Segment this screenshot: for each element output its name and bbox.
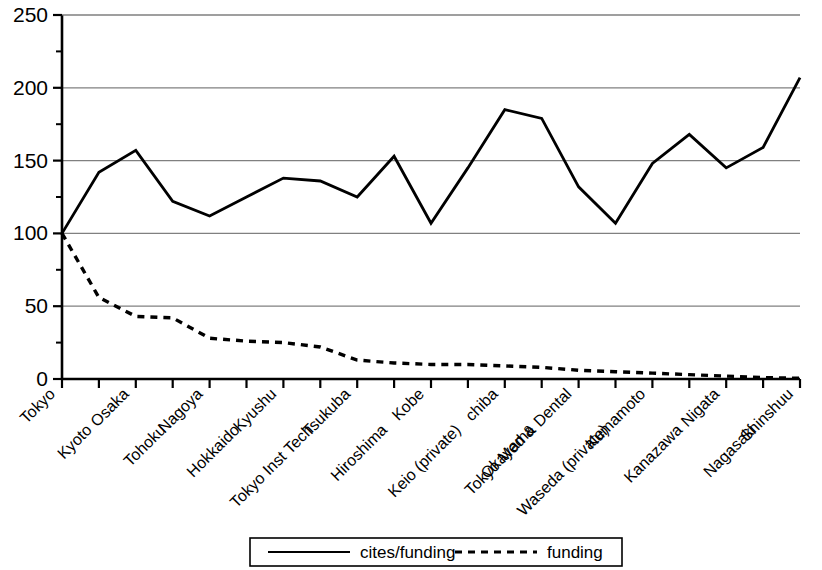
y-axis-tick-label: 150 xyxy=(13,149,48,172)
legend-label: cites/funding xyxy=(360,543,455,562)
y-axis-tick-label: 100 xyxy=(13,221,48,244)
chart-container: 050100150200250 TokyoKyotoOsakaTohokuNag… xyxy=(0,0,822,570)
line-chart: 050100150200250 TokyoKyotoOsakaTohokuNag… xyxy=(0,0,822,570)
legend-label: funding xyxy=(547,543,603,562)
y-axis-tick-label: 250 xyxy=(13,3,48,26)
y-axis-tick-label: 200 xyxy=(13,76,48,99)
y-axis-tick-label: 50 xyxy=(25,294,48,317)
x-axis-ticks-group xyxy=(62,379,800,388)
legend: cites/fundingfunding xyxy=(250,538,622,566)
